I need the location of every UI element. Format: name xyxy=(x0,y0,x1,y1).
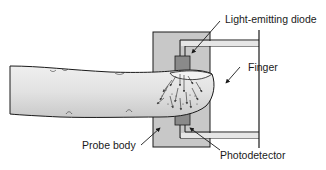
finger-label: Finger xyxy=(248,62,278,73)
photodetector-label: Photodetector xyxy=(220,150,285,161)
pulse-oximeter-diagram xyxy=(0,0,326,170)
probe-body-label: Probe body xyxy=(82,140,136,151)
led-component xyxy=(175,56,190,71)
finger xyxy=(10,66,214,117)
finger-leader xyxy=(226,67,240,83)
led-label: Light-emitting diode xyxy=(225,14,317,25)
